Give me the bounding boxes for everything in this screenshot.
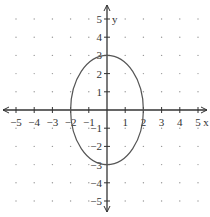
axes: [3, 5, 207, 212]
grid-dot: [161, 73, 162, 74]
grid-dot: [34, 91, 35, 92]
grid-dot: [70, 73, 71, 74]
grid-dot: [179, 164, 180, 165]
grid-dot: [161, 182, 162, 183]
grid-dot: [70, 200, 71, 201]
grid-dot: [15, 200, 16, 201]
grid-dot: [125, 200, 126, 201]
grid-dot: [15, 164, 16, 165]
grid-dot: [179, 200, 180, 201]
grid-dot: [197, 200, 198, 201]
grid-dot: [34, 37, 35, 38]
grid-dot: [70, 55, 71, 56]
y-tick-label: 1: [97, 86, 103, 98]
grid-dot: [88, 37, 89, 38]
grid-dot: [52, 200, 53, 201]
grid-dot: [197, 146, 198, 147]
grid-dot: [15, 73, 16, 74]
grid-dot: [179, 18, 180, 19]
grid-dot: [88, 146, 89, 147]
grid-dot: [15, 37, 16, 38]
grid-dot: [161, 200, 162, 201]
grid-dot: [179, 182, 180, 183]
grid-dot: [88, 182, 89, 183]
grid-dot: [179, 37, 180, 38]
grid-dot: [52, 55, 53, 56]
y-tick-label: 4: [97, 31, 103, 43]
grid-dot: [161, 55, 162, 56]
grid-dot: [125, 146, 126, 147]
grid-dot: [52, 146, 53, 147]
grid-dot: [34, 164, 35, 165]
grid-dot: [52, 164, 53, 165]
grid-dot: [52, 91, 53, 92]
x-tick-label: 4: [177, 116, 183, 128]
y-tick-label: 2: [97, 68, 103, 80]
grid-dot: [125, 37, 126, 38]
grid-dot: [34, 18, 35, 19]
grid-dot: [88, 200, 89, 201]
x-tick-label: −5: [10, 116, 22, 128]
grid-dot: [125, 91, 126, 92]
y-tick-label: −1: [90, 122, 102, 134]
ellipse-graph: −5−4−3−2−112345−5−4−3−2−112345xy: [0, 0, 210, 217]
grid-dot: [197, 55, 198, 56]
grid-dot: [88, 91, 89, 92]
grid-dot: [179, 55, 180, 56]
grid-dot: [70, 91, 71, 92]
grid-dot: [143, 18, 144, 19]
grid-dot: [197, 182, 198, 183]
grid-dot: [143, 73, 144, 74]
grid-dot: [125, 182, 126, 183]
grid-dot: [161, 146, 162, 147]
grid-dot: [70, 182, 71, 183]
grid-dot: [34, 55, 35, 56]
grid-dot: [143, 91, 144, 92]
grid-dot: [88, 73, 89, 74]
grid-dot: [197, 73, 198, 74]
grid-dot: [161, 164, 162, 165]
grid-dot: [143, 37, 144, 38]
grid-dot: [161, 37, 162, 38]
x-tick-label: 5: [195, 116, 201, 128]
grid-dot: [125, 18, 126, 19]
x-tick-label: 3: [159, 116, 165, 128]
grid-dot: [197, 37, 198, 38]
grid-dot: [52, 37, 53, 38]
grid-dot: [34, 146, 35, 147]
y-tick-label: −4: [90, 177, 102, 189]
grid-dot: [34, 182, 35, 183]
grid-dot: [15, 55, 16, 56]
grid-dot: [15, 146, 16, 147]
grid-dot: [125, 164, 126, 165]
x-tick-label: 1: [122, 116, 128, 128]
x-tick-label: −3: [47, 116, 59, 128]
grid-dot: [143, 164, 144, 165]
grid-dot: [143, 146, 144, 147]
grid-dot: [197, 164, 198, 165]
grid-dot: [70, 18, 71, 19]
grid-dot: [52, 73, 53, 74]
grid-dot: [143, 55, 144, 56]
grid-dot: [34, 200, 35, 201]
y-tick-label: 5: [97, 13, 103, 25]
x-axis-label: x: [203, 116, 209, 128]
grid-dot: [197, 18, 198, 19]
grid-dot: [125, 55, 126, 56]
grid-dot: [197, 91, 198, 92]
y-tick-label: −5: [90, 195, 102, 207]
grid-dot: [179, 73, 180, 74]
grid-dot: [161, 18, 162, 19]
grid-dot: [15, 91, 16, 92]
grid-dot: [88, 55, 89, 56]
y-tick-label: −2: [90, 140, 102, 152]
grid-dot: [52, 18, 53, 19]
grid-dot: [143, 182, 144, 183]
grid-dot: [88, 164, 89, 165]
grid-dot: [88, 18, 89, 19]
grid-dot: [125, 73, 126, 74]
grid-dot: [70, 146, 71, 147]
grid-dot: [161, 91, 162, 92]
grid-dot: [34, 73, 35, 74]
grid-dot: [70, 164, 71, 165]
